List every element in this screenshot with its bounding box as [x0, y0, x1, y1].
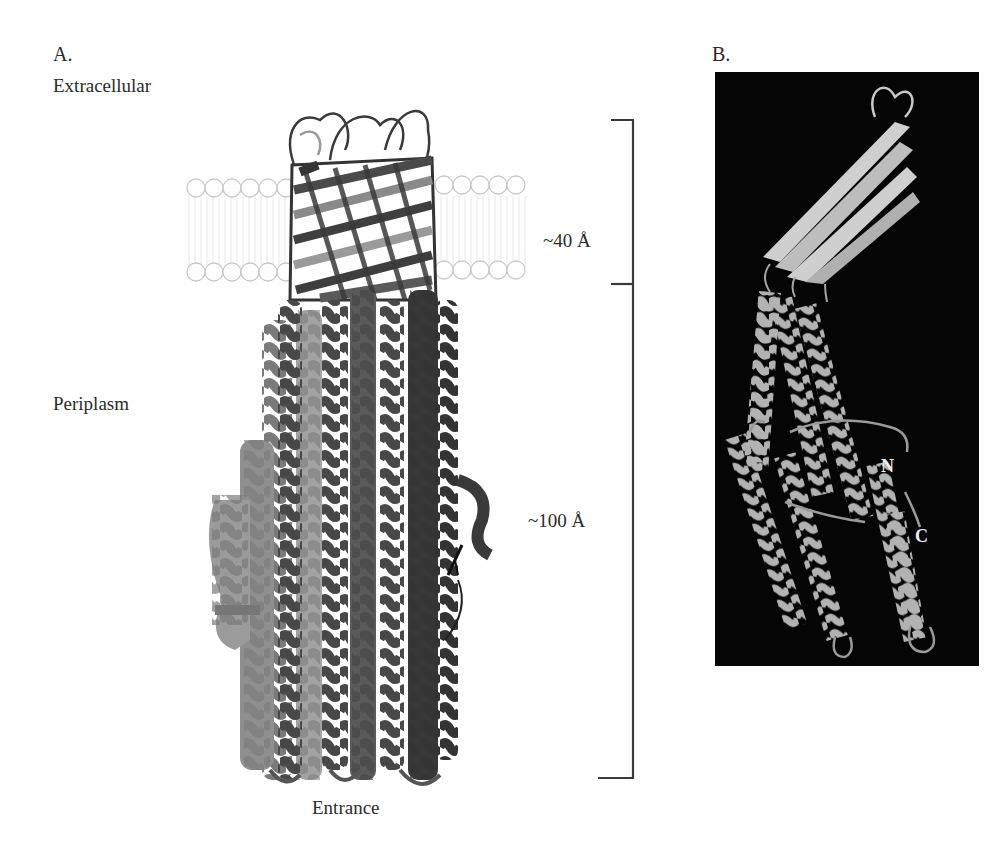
beta-barrel: [290, 158, 436, 300]
c-terminus-label: C: [915, 526, 928, 547]
helix-subunit-mid: [278, 290, 404, 780]
top-loop: [872, 88, 912, 117]
panel-b-letter: B.: [712, 43, 730, 66]
helix-subunit-dark: [408, 290, 490, 780]
beta-sheet: [763, 122, 920, 284]
n-terminus-label: N: [881, 456, 894, 477]
helix-subunit-light: [209, 310, 322, 780]
coiled-coil-helices: [725, 291, 926, 642]
panel-b-monomer: N C: [715, 72, 979, 666]
dimension-bracket: [598, 120, 633, 778]
monomer-ribbon: [715, 72, 979, 666]
panel-a-structure: [0, 0, 700, 841]
